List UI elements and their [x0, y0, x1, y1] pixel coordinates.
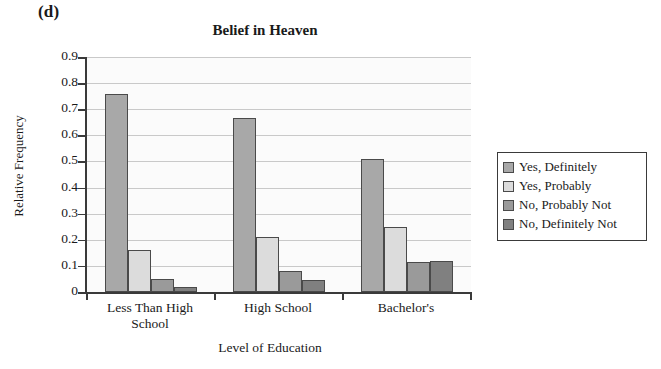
- legend-swatch-icon: [503, 162, 514, 173]
- y-axis-tick: [78, 109, 86, 111]
- y-axis-tick-labels: 0.90.80.70.60.50.40.30.20.10: [26, 0, 78, 369]
- legend-label: Yes, Definitely: [519, 159, 597, 175]
- x-axis-title: Level of Education: [160, 340, 380, 356]
- bar: [384, 227, 407, 292]
- bar: [361, 159, 384, 292]
- bar: [407, 262, 430, 292]
- y-axis-tick: [78, 135, 86, 137]
- y-axis-tick: [78, 83, 86, 85]
- bar-group: [215, 57, 343, 292]
- y-axis-tick: [78, 161, 86, 163]
- legend-swatch-icon: [503, 219, 514, 230]
- bar: [256, 237, 279, 292]
- legend-label: No, Probably Not: [519, 197, 611, 213]
- y-axis-tick: [78, 240, 86, 242]
- y-axis-tick-label: 0.1: [32, 259, 78, 271]
- bar: [302, 280, 325, 292]
- x-axis-line: [86, 292, 470, 294]
- bar-group: [87, 57, 215, 292]
- x-axis-tick: [86, 292, 88, 300]
- y-axis-tick: [78, 214, 86, 216]
- y-axis-tick-label: 0.6: [32, 128, 78, 140]
- y-axis-tick: [78, 188, 86, 190]
- chart-title: Belief in Heaven: [170, 22, 360, 39]
- bar: [105, 94, 128, 292]
- legend-swatch-icon: [503, 181, 514, 192]
- x-axis-group-label: Bachelor's: [330, 300, 482, 316]
- legend-item[interactable]: Yes, Probably: [503, 178, 641, 194]
- y-axis-tick-label: 0.4: [32, 181, 78, 193]
- plot-area: [86, 57, 471, 292]
- bar: [128, 250, 151, 292]
- legend: Yes, DefinitelyYes, ProbablyNo, Probably…: [497, 152, 647, 241]
- y-axis-tick: [78, 57, 86, 59]
- y-axis-tick-label: 0.8: [32, 76, 78, 88]
- x-axis-tick: [214, 292, 216, 300]
- y-axis-tick: [78, 266, 86, 268]
- legend-item[interactable]: No, Definitely Not: [503, 216, 641, 232]
- y-axis-tick-label: 0.9: [32, 50, 78, 62]
- y-axis-tick-label: 0.3: [32, 207, 78, 219]
- bar-group: [343, 57, 471, 292]
- bar: [430, 261, 453, 292]
- x-axis-label-line2: School: [74, 316, 226, 332]
- legend-swatch-icon: [503, 200, 514, 211]
- legend-label: No, Definitely Not: [519, 216, 617, 232]
- y-axis-tick: [78, 292, 86, 294]
- x-axis-tick: [470, 292, 472, 300]
- y-axis-tick-label: 0: [32, 285, 78, 297]
- bar: [233, 118, 256, 292]
- y-axis-tick-label: 0.7: [32, 102, 78, 114]
- legend-item[interactable]: Yes, Definitely: [503, 159, 641, 175]
- bar: [279, 271, 302, 292]
- y-axis-tick-label: 0.5: [32, 154, 78, 166]
- bar: [151, 279, 174, 292]
- legend-item[interactable]: No, Probably Not: [503, 197, 641, 213]
- x-axis-tick: [342, 292, 344, 300]
- y-axis-tick-label: 0.2: [32, 233, 78, 245]
- figure-panel: (d) Belief in Heaven Relative Frequency …: [0, 0, 661, 369]
- legend-label: Yes, Probably: [519, 178, 591, 194]
- y-axis-line: [85, 57, 87, 293]
- y-axis-title: Relative Frequency: [11, 76, 27, 256]
